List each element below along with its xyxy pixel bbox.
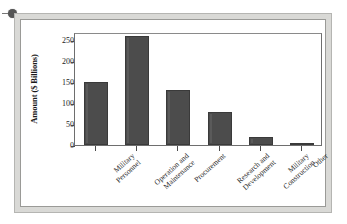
x-category-label: MilitaryPersonnel xyxy=(108,152,142,185)
x-category-label: Other xyxy=(312,152,331,170)
x-tick-mark xyxy=(301,146,302,151)
x-tick-mark xyxy=(136,146,137,151)
figure-panel: Amount ($ Billions) 050100150200250 Mili… xyxy=(14,13,332,213)
x-category-label: Research andDevelopment xyxy=(235,152,277,192)
x-category-label: MilitaryConstruction xyxy=(276,152,317,191)
x-tick-mark xyxy=(260,146,261,151)
x-category-label-line1: Other xyxy=(311,151,330,169)
bar xyxy=(166,90,190,145)
x-tick-mark xyxy=(177,146,178,151)
bar xyxy=(125,36,149,145)
x-tick-mark xyxy=(219,146,220,151)
chart-container: Amount ($ Billions) 050100150200250 Mili… xyxy=(21,20,325,206)
x-tick-mark xyxy=(95,146,96,151)
plot-area xyxy=(74,33,322,146)
x-category-label: Operation andMaintenance xyxy=(153,152,197,194)
bar-highlight xyxy=(251,139,253,143)
figure-inner-canvas: Amount ($ Billions) 050100150200250 Mili… xyxy=(20,19,326,207)
x-category-label-line1: Procurement xyxy=(193,151,228,184)
bar xyxy=(249,137,273,145)
bar xyxy=(208,112,232,145)
x-category-label: Procurement xyxy=(193,152,228,184)
bar-highlight xyxy=(127,38,129,143)
bar-highlight xyxy=(168,92,170,143)
bars-layer xyxy=(75,34,321,145)
bar-highlight xyxy=(210,114,212,143)
bar xyxy=(290,143,314,145)
y-axis-ticks: 050100150200250 xyxy=(41,20,74,150)
x-axis-labels: MilitaryPersonnelOperation andMaintenanc… xyxy=(21,152,327,208)
y-axis-title: Amount ($ Billions) xyxy=(27,34,41,144)
bar xyxy=(84,82,108,145)
bar-highlight xyxy=(86,84,88,143)
